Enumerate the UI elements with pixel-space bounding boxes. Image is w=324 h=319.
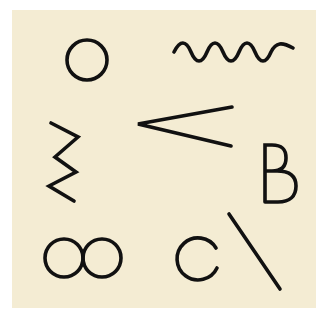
symbol-canvas xyxy=(0,0,324,319)
